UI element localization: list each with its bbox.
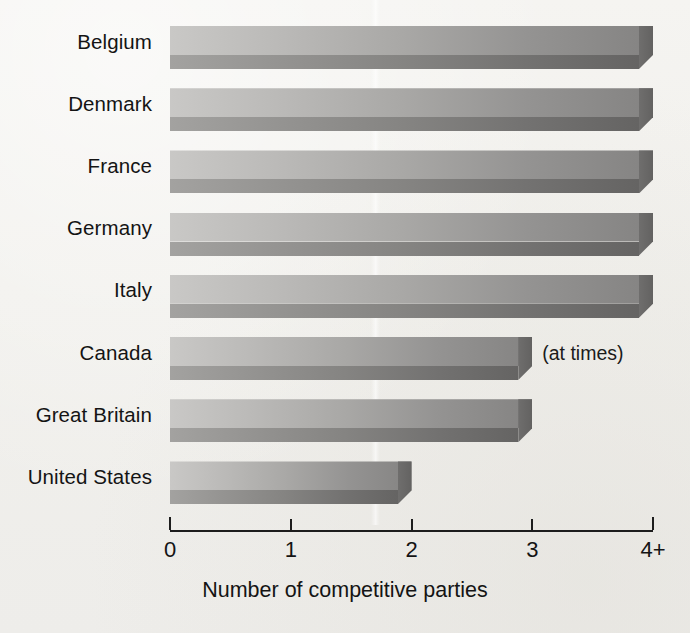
bar-category-label: France [0,154,152,178]
bar-belgium [170,26,653,69]
bar-top-face [170,213,653,242]
bar-category-label: Denmark [0,92,152,116]
bar-shadow-face [170,242,639,256]
bar-shadow-face [170,490,398,504]
x-axis-tick [290,519,292,530]
x-axis-title: Number of competitive parties [0,578,690,603]
bar-category-label: Belgium [0,30,152,54]
bar-annotation: (at times) [542,342,623,365]
bar-great-britain [170,399,532,442]
bar-shadow-face [170,179,639,193]
bar-end-chamfer [518,337,532,380]
bar-shadow-face [170,304,639,318]
bar-end-chamfer [639,275,653,318]
bar-top-face [170,461,412,490]
bar-row: Belgium [0,26,690,69]
bar-top-face [170,337,532,366]
bar-end-chamfer [639,213,653,256]
bar-canada [170,337,532,380]
x-axis-tick-label: 0 [140,537,200,563]
x-axis-tick [169,517,171,530]
x-axis-tick [531,519,533,530]
bar-row: Germany [0,213,690,256]
bar-united-states [170,461,412,504]
bar-france [170,150,653,193]
bar-category-label: Germany [0,216,152,240]
bar-shadow-face [170,428,518,442]
bar-category-label: Great Britain [0,403,152,427]
x-axis-tick-label: 1 [261,537,321,563]
bar-shadow-face [170,117,639,131]
bar-category-label: United States [0,465,152,489]
bar-denmark [170,88,653,131]
x-axis-tick-label: 2 [382,537,442,563]
bar-end-chamfer [518,399,532,442]
bar-end-chamfer [639,150,653,193]
bar-top-face [170,275,653,304]
bar-shadow-face [170,55,639,69]
bar-germany [170,213,653,256]
bar-end-chamfer [639,26,653,69]
bar-category-label: Italy [0,278,152,302]
x-axis-line [170,530,653,532]
bar-row: France [0,150,690,193]
bar-top-face [170,88,653,117]
bar-row: Denmark [0,88,690,131]
x-axis-tick [411,519,413,530]
x-axis-tick-label: 4+ [623,537,683,563]
chart-page: BelgiumDenmarkFranceGermanyItalyCanada(a… [0,0,690,633]
bar-row: Italy [0,275,690,318]
bar-shadow-face [170,366,518,380]
bar-row: Great Britain [0,399,690,442]
x-axis-tick [652,517,654,530]
bar-category-label: Canada [0,341,152,365]
bar-row: Canada(at times) [0,337,690,380]
bar-end-chamfer [639,88,653,131]
bar-top-face [170,26,653,55]
x-axis-tick-label: 3 [502,537,562,563]
bar-row: United States [0,461,690,504]
bar-top-face [170,399,532,428]
bar-top-face [170,150,653,179]
bar-chart-plot-area: BelgiumDenmarkFranceGermanyItalyCanada(a… [0,0,690,633]
bar-italy [170,275,653,318]
bar-end-chamfer [398,461,412,504]
